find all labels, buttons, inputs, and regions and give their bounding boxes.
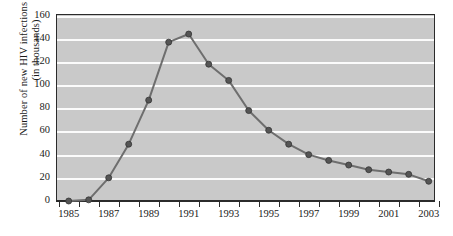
data-point-marker bbox=[226, 77, 232, 83]
series-polyline bbox=[69, 34, 429, 201]
data-point-marker bbox=[186, 31, 192, 37]
data-point-marker bbox=[166, 39, 172, 45]
data-point-marker bbox=[346, 162, 352, 168]
data-series-line bbox=[0, 0, 453, 236]
data-point-marker bbox=[306, 152, 312, 158]
data-point-marker bbox=[66, 198, 72, 204]
data-point-marker bbox=[146, 97, 152, 103]
data-point-marker bbox=[386, 169, 392, 175]
data-point-marker bbox=[206, 61, 212, 67]
data-point-marker bbox=[326, 157, 332, 163]
data-point-marker bbox=[406, 171, 412, 177]
data-point-marker bbox=[366, 167, 372, 173]
data-point-marker bbox=[246, 108, 252, 114]
data-point-marker bbox=[106, 175, 112, 181]
data-point-marker bbox=[126, 141, 132, 147]
data-point-marker bbox=[286, 141, 292, 147]
data-point-marker bbox=[426, 178, 432, 184]
data-point-marker bbox=[266, 127, 272, 133]
data-point-marker bbox=[86, 197, 92, 203]
chart-figure: Number of new HIV infections per year (i… bbox=[0, 0, 453, 236]
